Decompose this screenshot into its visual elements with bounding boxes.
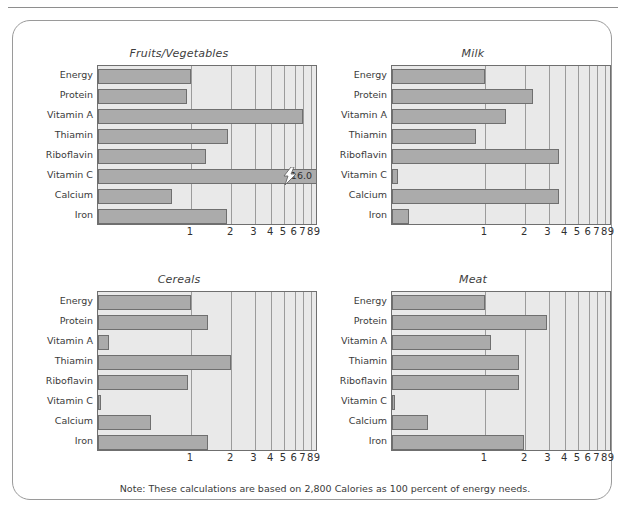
plot-canvas: 16.0 bbox=[97, 65, 317, 225]
axis-tick-label: 2 bbox=[521, 227, 527, 237]
gridline bbox=[295, 66, 296, 224]
gridline bbox=[565, 292, 566, 450]
category-label: Calcium bbox=[349, 416, 387, 426]
gridline bbox=[255, 292, 256, 450]
bar bbox=[98, 295, 191, 310]
category-label: Calcium bbox=[55, 190, 93, 200]
panel-title: Meat bbox=[329, 273, 617, 286]
axis-tick-label: 6 bbox=[584, 453, 590, 463]
axis-tick-label: 1 bbox=[187, 227, 193, 237]
axis-tick-label: 2 bbox=[521, 453, 527, 463]
category-axis: EnergyProteinVitamin AThiaminRiboflavinV… bbox=[35, 65, 93, 225]
axis-tick-label: 8 bbox=[601, 453, 607, 463]
bar bbox=[98, 189, 172, 204]
bar bbox=[392, 109, 506, 124]
chart-panel: CerealsEnergyProteinVitamin AThiaminRibo… bbox=[35, 273, 323, 488]
plot-area bbox=[391, 65, 611, 225]
category-label: Thiamin bbox=[349, 356, 387, 366]
axis-tick-label: 6 bbox=[290, 453, 296, 463]
gridline bbox=[605, 292, 606, 450]
category-label: Riboflavin bbox=[46, 150, 93, 160]
category-label: Protein bbox=[60, 90, 93, 100]
value-axis: 123456789 bbox=[97, 227, 317, 241]
category-label: Riboflavin bbox=[340, 150, 387, 160]
gridline bbox=[303, 66, 304, 224]
axis-tick-label: 8 bbox=[601, 227, 607, 237]
gridline bbox=[255, 66, 256, 224]
category-label: Iron bbox=[369, 210, 387, 220]
panel-title: Milk bbox=[329, 47, 617, 60]
bar bbox=[392, 335, 491, 350]
axis-tick-label: 3 bbox=[544, 453, 550, 463]
gridline bbox=[295, 292, 296, 450]
category-label: Calcium bbox=[349, 190, 387, 200]
gridline bbox=[231, 66, 232, 224]
axis-tick-label: 3 bbox=[250, 227, 256, 237]
bar bbox=[98, 375, 188, 390]
bar bbox=[98, 355, 231, 370]
gridline bbox=[191, 66, 192, 224]
bar bbox=[98, 335, 109, 350]
gridline bbox=[578, 66, 579, 224]
plot-area bbox=[97, 291, 317, 451]
category-label: Vitamin C bbox=[47, 396, 93, 406]
gridline bbox=[311, 292, 312, 450]
plot-area bbox=[391, 291, 611, 451]
category-label: Protein bbox=[60, 316, 93, 326]
category-label: Vitamin C bbox=[341, 396, 387, 406]
category-axis: EnergyProteinVitamin AThiaminRiboflavinV… bbox=[35, 291, 93, 451]
value-axis: 123456789 bbox=[391, 453, 611, 467]
top-divider bbox=[8, 7, 618, 8]
category-label: Riboflavin bbox=[46, 376, 93, 386]
bar bbox=[392, 355, 519, 370]
bar bbox=[392, 315, 547, 330]
panel-title: Cereals bbox=[35, 273, 323, 286]
axis-tick-label: 5 bbox=[574, 453, 580, 463]
gridline bbox=[271, 292, 272, 450]
bar bbox=[98, 315, 208, 330]
bar bbox=[98, 109, 303, 124]
bar bbox=[392, 209, 409, 224]
bar bbox=[392, 169, 398, 184]
gridline bbox=[303, 292, 304, 450]
gridline bbox=[578, 292, 579, 450]
bar bbox=[98, 209, 227, 224]
bar bbox=[392, 435, 524, 450]
category-label: Energy bbox=[354, 70, 387, 80]
category-axis: EnergyProteinVitamin AThiaminRiboflavinV… bbox=[329, 65, 387, 225]
plot-canvas bbox=[97, 291, 317, 451]
category-label: Thiamin bbox=[349, 130, 387, 140]
category-label: Vitamin A bbox=[341, 110, 387, 120]
category-label: Iron bbox=[75, 210, 93, 220]
category-label: Protein bbox=[354, 90, 387, 100]
category-label: Iron bbox=[369, 436, 387, 446]
category-axis: EnergyProteinVitamin AThiaminRiboflavinV… bbox=[329, 291, 387, 451]
axis-tick-label: 9 bbox=[314, 453, 320, 463]
category-label: Protein bbox=[354, 316, 387, 326]
category-label: Energy bbox=[60, 296, 93, 306]
axis-tick-label: 1 bbox=[481, 453, 487, 463]
bar bbox=[98, 149, 206, 164]
plot-area: 16.0 bbox=[97, 65, 317, 225]
axis-tick-label: 7 bbox=[299, 453, 305, 463]
value-axis: 123456789 bbox=[97, 453, 317, 467]
category-label: Iron bbox=[75, 436, 93, 446]
panel-grid: Fruits/VegetablesEnergyProteinVitamin AT… bbox=[27, 45, 623, 475]
bar bbox=[392, 189, 559, 204]
chart-panel: Fruits/VegetablesEnergyProteinVitamin AT… bbox=[35, 47, 323, 262]
panel-title: Fruits/Vegetables bbox=[35, 47, 323, 60]
bar bbox=[392, 129, 476, 144]
axis-tick-label: 7 bbox=[299, 227, 305, 237]
plot-canvas bbox=[391, 291, 611, 451]
bar bbox=[392, 149, 559, 164]
bar bbox=[392, 295, 485, 310]
category-label: Thiamin bbox=[55, 356, 93, 366]
axis-tick-label: 5 bbox=[280, 227, 286, 237]
gridline bbox=[311, 66, 312, 224]
bar bbox=[98, 395, 101, 410]
bar bbox=[392, 395, 395, 410]
axis-tick-label: 7 bbox=[593, 227, 599, 237]
value-axis: 123456789 bbox=[391, 227, 611, 241]
axis-tick-label: 5 bbox=[574, 227, 580, 237]
category-label: Vitamin A bbox=[47, 110, 93, 120]
